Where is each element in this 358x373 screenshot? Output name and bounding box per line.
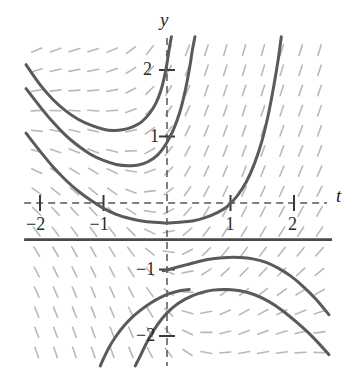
x-tick-label-neg1: −1: [90, 215, 109, 233]
y-tick-label-neg1: −1: [136, 260, 155, 278]
t-axis-label: t: [336, 186, 341, 205]
x-tick-label-neg2: −2: [26, 215, 45, 233]
slope-field-figure: y t −2 −1 1 2 2 1 −1 −2: [0, 0, 358, 373]
y-tick-label-neg2: −2: [136, 326, 155, 344]
x-tick-label-1: 1: [226, 215, 235, 233]
y-tick-label-2: 2: [143, 60, 152, 78]
plot-canvas: [0, 0, 358, 373]
y-tick-label-1: 1: [150, 127, 159, 145]
x-tick-label-2: 2: [288, 215, 297, 233]
y-axis-label: y: [160, 10, 168, 29]
axes: [24, 38, 327, 366]
